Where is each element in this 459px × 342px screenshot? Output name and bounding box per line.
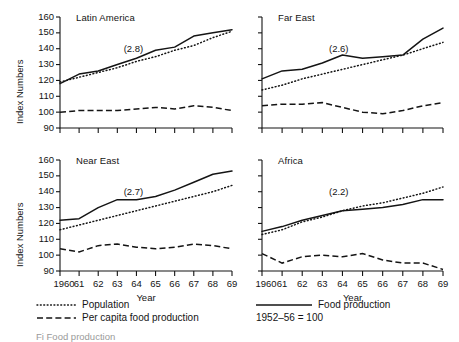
x-tick-label: 64 — [333, 278, 351, 289]
x-tick-label: 67 — [185, 278, 203, 289]
x-tick-label: 67 — [394, 278, 412, 289]
x-tick-label: 69 — [223, 278, 241, 289]
y-tick-label: 160 — [26, 154, 54, 165]
series-food-production — [60, 171, 232, 220]
panel-title: Near East — [76, 155, 119, 166]
x-tick-label: 63 — [108, 278, 126, 289]
y-tick-label: 130 — [26, 58, 54, 69]
x-tick-label: 64 — [127, 278, 145, 289]
x-tick-label: 62 — [89, 278, 107, 289]
y-tick-label: 90 — [26, 122, 54, 133]
base-period-note: 1952–56 = 100 — [256, 312, 323, 323]
y-tick-label: 100 — [26, 106, 54, 117]
legend-label-population: Population — [82, 299, 129, 310]
x-tick-label: 68 — [204, 278, 222, 289]
panel-title: Africa — [278, 155, 303, 166]
series-per-capita-food-production — [60, 106, 232, 112]
x-tick-label: 61 — [70, 278, 88, 289]
panel-africa — [258, 160, 443, 276]
panel-title: Far East — [278, 12, 315, 23]
series-food-production — [262, 28, 443, 79]
y-axis-title: Index Numbers — [14, 60, 25, 124]
y-tick-label: 130 — [26, 201, 54, 212]
y-tick-label: 110 — [26, 233, 54, 244]
x-tick-label: 66 — [166, 278, 184, 289]
x-tick-label: 65 — [354, 278, 372, 289]
y-tick-label: 140 — [26, 185, 54, 196]
x-tick-label: 69 — [434, 278, 452, 289]
series-per-capita-food-production — [262, 254, 443, 270]
y-axis-title: Index Numbers — [14, 203, 25, 267]
y-tick-label: 160 — [26, 11, 54, 22]
series-population — [262, 42, 443, 90]
panel-near-east — [56, 160, 232, 276]
legend-label-food-production: Food production — [318, 299, 390, 310]
y-tick-label: 110 — [26, 90, 54, 101]
panel-annotation: (2.2) — [329, 186, 349, 197]
panel-annotation: (2.6) — [329, 43, 349, 54]
y-tick-label: 120 — [26, 217, 54, 228]
y-tick-label: 100 — [26, 249, 54, 260]
series-per-capita-food-production — [262, 103, 443, 114]
y-tick-label: 140 — [26, 42, 54, 53]
x-tick-label: 62 — [293, 278, 311, 289]
x-tick-label: 61 — [273, 278, 291, 289]
figure-caption-fragment: Fi Food production — [36, 331, 115, 342]
series-population — [60, 185, 232, 229]
y-tick-label: 90 — [26, 265, 54, 276]
panel-annotation: (2.7) — [124, 186, 144, 197]
legend-label-per-capita-food-production: Per capita food production — [82, 312, 199, 323]
panel-far-east — [258, 17, 443, 133]
series-population — [60, 31, 232, 82]
axis-spine — [262, 160, 443, 271]
series-population — [262, 187, 443, 235]
panel-latin-america — [56, 17, 232, 133]
y-tick-label: 120 — [26, 74, 54, 85]
panel-annotation: (2.8) — [124, 43, 144, 54]
x-tick-label: 68 — [414, 278, 432, 289]
x-tick-label: 65 — [147, 278, 165, 289]
y-tick-label: 150 — [26, 26, 54, 37]
panel-title: Latin America — [76, 12, 135, 23]
x-tick-label: 66 — [374, 278, 392, 289]
y-tick-label: 150 — [26, 169, 54, 180]
x-tick-label: 63 — [313, 278, 331, 289]
axis-spine — [262, 17, 443, 128]
series-per-capita-food-production — [60, 244, 232, 252]
